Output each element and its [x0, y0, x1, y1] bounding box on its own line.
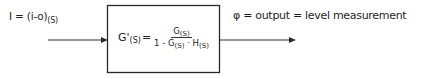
input-expression: (i-o) [27, 10, 48, 22]
formula-fraction: G(S) 1 - G(S) · H(S) [154, 26, 209, 48]
input-equals: = [12, 10, 27, 22]
denominator-prefix: 1 - G [154, 38, 174, 48]
formula-lhs-subscript: (S) [130, 36, 141, 45]
output-label: φ = output = level measurement [233, 9, 406, 22]
transfer-function-formula: G'(S)= G(S) 1 - G(S) · H(S) [118, 26, 209, 48]
denominator-h: · H [184, 38, 199, 48]
formula-lhs: G' [118, 31, 130, 44]
formula-denominator: 1 - G(S) · H(S) [154, 38, 209, 48]
denominator-g-subscript: (S) [175, 42, 185, 50]
input-subscript: (S) [47, 16, 58, 25]
numerator-term: G [173, 26, 180, 36]
output-arrowhead-icon [289, 37, 296, 43]
denominator-h-subscript: (S) [199, 42, 209, 50]
formula-numerator: G(S) [171, 26, 192, 38]
numerator-subscript: (S) [180, 30, 190, 38]
formula-equals: = [142, 31, 151, 44]
input-label: I = (i-o)(S) [9, 10, 58, 22]
